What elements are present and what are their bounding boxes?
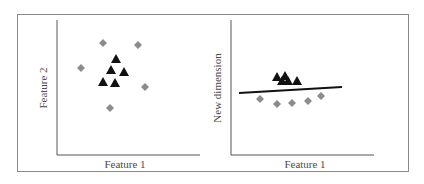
diamond-marker [317, 92, 325, 100]
diamond-marker [288, 99, 296, 107]
left-y-axis-label: Feature 2 [37, 67, 49, 108]
figure-canvas: Feature 1 Feature 2 Feature 1 New dimens… [0, 0, 424, 184]
right-y-axis-label: New dimension [211, 53, 223, 123]
left-panel: Feature 1 Feature 2 [37, 20, 200, 170]
triangle-marker [111, 54, 121, 63]
separator-line [239, 87, 342, 93]
left-x-axis-label: Feature 1 [104, 158, 145, 170]
diamond-marker [141, 83, 149, 91]
diamond-marker [106, 104, 114, 112]
diamond-marker [256, 95, 264, 103]
triangle-marker [110, 78, 120, 87]
triangle-marker [292, 76, 302, 85]
triangle-marker [119, 67, 129, 76]
diamond-marker [77, 64, 85, 72]
left-scatter-points [77, 39, 149, 112]
right-x-axis-label: Feature 1 [284, 158, 325, 170]
triangle-marker [98, 77, 108, 86]
diamond-marker [304, 97, 312, 105]
diamond-marker [134, 41, 142, 49]
triangle-marker [106, 65, 116, 74]
diamond-marker [99, 39, 107, 47]
diamond-marker [273, 100, 281, 108]
right-panel: Feature 1 New dimension [211, 20, 374, 170]
